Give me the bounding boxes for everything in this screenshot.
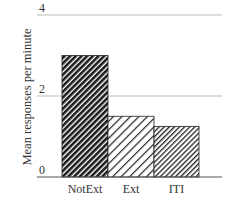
bar-ext (108, 116, 154, 177)
bars (62, 56, 199, 178)
x-tick-label: ITI (169, 182, 184, 196)
bar-iti (154, 126, 199, 177)
x-tick-label: Ext (123, 182, 140, 196)
y-tick-label: 2 (39, 82, 45, 96)
y-tick-label: 4 (39, 1, 45, 15)
x-tick-label: NotExt (68, 182, 103, 196)
bar-chart: 024NotExtExtITI (0, 0, 235, 204)
y-tick-label: 0 (39, 163, 45, 177)
bar-notext (62, 56, 108, 178)
